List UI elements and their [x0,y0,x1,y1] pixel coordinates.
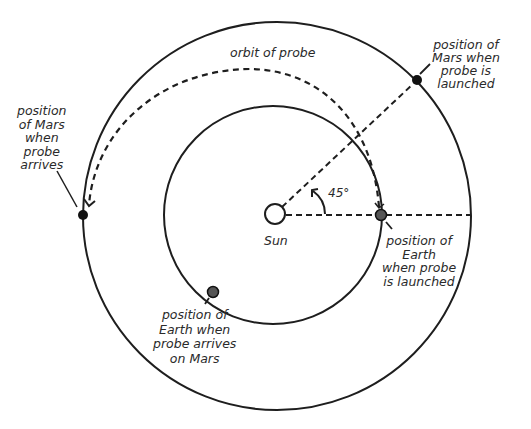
angle-arc [313,191,325,214]
leader-mars-arrive [57,171,77,207]
label-angle: 45° [328,186,349,200]
earth-launch-marker [376,210,387,221]
label-mars-launched: position of Mars when probe is launched [432,38,500,90]
label-earth-arrives: position of Earth when probe arrives on … [153,308,236,366]
mars-launch-marker [412,75,422,85]
label-mars-arrives: position of Mars when probe arrives [17,104,67,172]
earth-arrive-marker [208,287,219,298]
mars-arrive-marker [78,210,88,220]
sun [265,204,285,224]
label-earth-launched: position of Earth when probe is launched [382,234,456,288]
label-sun: Sun [264,234,288,248]
leader-earth-launch [386,222,392,229]
label-orbit-of-probe: orbit of probe [230,46,315,60]
leader-mars-launch [420,64,430,74]
